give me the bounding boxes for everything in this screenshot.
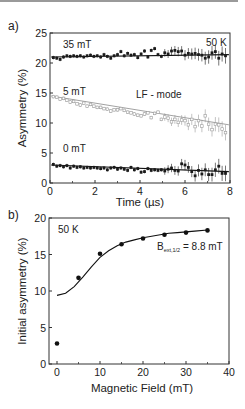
- data-point: [96, 54, 99, 57]
- data-point: [150, 169, 153, 172]
- data-point: [119, 50, 122, 53]
- data-point: [136, 56, 139, 59]
- data-point: [207, 173, 210, 176]
- data-point: [194, 52, 197, 55]
- y-tick-label: 10: [34, 285, 46, 297]
- series-label-35mt: 35 mT: [63, 39, 91, 50]
- data-point: [153, 47, 156, 50]
- data-point: [133, 113, 136, 116]
- bhalf-annotation: Bext,1/2 = 8.8 mT: [157, 241, 223, 253]
- axis-ticks-b: 01020304005101520: [34, 212, 235, 378]
- y-tick-label: 15: [34, 249, 46, 261]
- data-point: [76, 166, 79, 169]
- data-point: [55, 96, 58, 99]
- data-point: [187, 124, 190, 127]
- data-point: [177, 170, 180, 173]
- data-point: [86, 105, 89, 108]
- data-point: [140, 53, 143, 56]
- data-point: [133, 168, 136, 171]
- data-point: [217, 57, 220, 60]
- data-point: [126, 111, 129, 114]
- data-point: [69, 55, 72, 58]
- data-point: [65, 164, 68, 167]
- data-point: [136, 114, 139, 117]
- data-point: [197, 53, 200, 56]
- y-tick-label: 5: [40, 322, 46, 334]
- x-tick-label: 0: [54, 366, 60, 378]
- y-tick-label: 0: [41, 177, 47, 189]
- data-point: [214, 123, 217, 126]
- data-point: [96, 167, 99, 170]
- x-tick-label: 8: [227, 185, 233, 197]
- data-point: [140, 115, 143, 118]
- data-point: [170, 121, 173, 124]
- panel-a-label: a): [8, 19, 19, 33]
- data-point: [76, 103, 79, 106]
- data-point: [103, 167, 106, 170]
- data-point: [130, 54, 133, 57]
- data-point: [119, 167, 122, 170]
- data-point: [113, 54, 116, 57]
- data-point: [66, 99, 69, 102]
- data-point: [96, 106, 99, 109]
- data-point: [214, 50, 217, 53]
- x-tick-label: 30: [180, 366, 192, 378]
- data-point: [130, 112, 133, 115]
- figure: a) 024680510152025 35 mT 50 K 5 mT LF - …: [0, 0, 245, 409]
- data-point: [82, 167, 85, 170]
- data-point: [93, 105, 96, 108]
- data-point: [126, 169, 129, 172]
- data-point: [123, 109, 126, 112]
- data-point: [52, 56, 55, 59]
- data-point: [82, 56, 85, 59]
- data-point: [157, 111, 160, 114]
- data-point: [184, 54, 187, 57]
- data-point: [116, 53, 119, 56]
- data-point: [177, 121, 180, 124]
- data-point: [113, 166, 116, 169]
- mode-label: LF - mode: [136, 89, 182, 100]
- data-point: [163, 51, 166, 54]
- bhalf-subscript: ext,1/2: [164, 247, 181, 253]
- data-point: [98, 251, 103, 256]
- x-axis-label-b: Magnetic Field (mT): [91, 382, 193, 394]
- data-point: [170, 167, 173, 170]
- data-point: [99, 167, 102, 170]
- data-point: [147, 112, 150, 115]
- y-tick-label: 20: [34, 212, 46, 224]
- data-point: [187, 166, 190, 169]
- y-axis-label-a: Asymmetry (%): [16, 69, 28, 148]
- data-point: [200, 173, 203, 176]
- data-point: [52, 163, 55, 166]
- data-point: [92, 166, 95, 169]
- panel-b-chart: b) 01020304005101520 50 K Bext,1/2 = 8.8…: [8, 208, 235, 394]
- panel-b-label: b): [8, 208, 19, 222]
- data-point: [207, 56, 210, 59]
- data-point: [62, 56, 65, 59]
- data-series-a: [51, 44, 229, 181]
- data-point: [150, 116, 153, 119]
- data-point: [160, 168, 163, 171]
- y-tick-label: 5: [41, 147, 47, 159]
- data-point: [59, 164, 62, 167]
- data-point: [221, 172, 224, 175]
- data-point: [72, 165, 75, 168]
- data-point: [65, 54, 68, 57]
- data-point: [106, 168, 109, 171]
- data-point: [146, 167, 149, 170]
- data-point: [163, 170, 166, 173]
- data-point: [143, 113, 146, 116]
- data-point: [211, 128, 214, 131]
- data-point: [116, 168, 119, 171]
- data-point: [119, 242, 124, 247]
- data-point: [62, 165, 65, 168]
- data-point: [103, 107, 106, 110]
- data-point: [153, 168, 156, 171]
- data-point: [62, 97, 65, 100]
- data-point: [136, 167, 139, 170]
- data-point: [190, 170, 193, 173]
- temperature-label-a: 50 K: [206, 37, 227, 48]
- data-point: [79, 165, 82, 168]
- x-tick-label: 2: [92, 185, 98, 197]
- data-point: [217, 165, 220, 168]
